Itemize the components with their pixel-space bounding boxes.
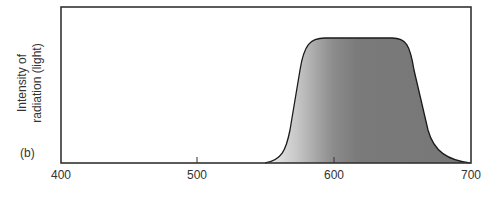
x-tick-label-500: 500 <box>187 168 207 182</box>
chart <box>0 0 500 198</box>
x-tick-label-400: 400 <box>51 168 71 182</box>
y-axis-label: Intensity of radiation (light) <box>10 18 50 148</box>
y-axis-label-line-1: Intensity of <box>15 43 30 122</box>
panel-label: (b) <box>20 146 35 160</box>
x-tick-label-700: 700 <box>461 168 481 182</box>
y-axis-label-line-2: radiation (light) <box>30 43 45 122</box>
intensity-area <box>265 38 470 163</box>
x-tick-label-600: 600 <box>324 168 344 182</box>
